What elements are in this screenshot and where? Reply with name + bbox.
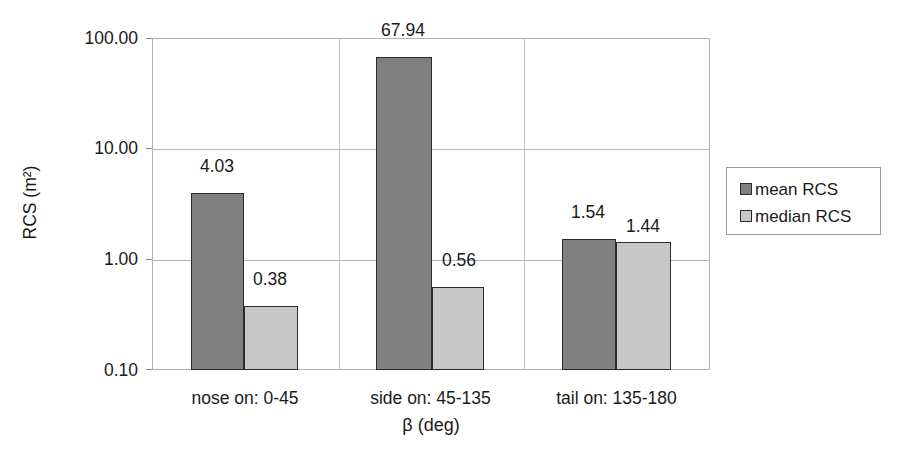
x-category-label-side-on: side on: 45-135 [338, 390, 523, 408]
y-tick-label-1: 1.00 [52, 251, 138, 269]
legend-swatch-mean-icon [740, 183, 752, 195]
x-category-label-nose-on: nose on: 0-45 [152, 390, 338, 408]
bar-value-median-side-on: 0.56 [417, 252, 501, 270]
bar-value-median-nose-on: 0.38 [228, 271, 312, 289]
bar-median-tail-on[interactable] [616, 242, 671, 370]
bar-mean-tail-on[interactable] [562, 239, 616, 370]
legend: mean RCS median RCS [726, 167, 881, 235]
legend-item-mean-rcs[interactable]: mean RCS [740, 178, 838, 200]
category-separator-2 [524, 39, 525, 369]
rcs-bar-chart: 100.00 10.00 1.00 0.10 RCS (m²) 4.03 [0, 0, 911, 459]
bar-median-nose-on[interactable] [244, 306, 298, 370]
y-axis-title: RCS (m²) [8, 128, 52, 278]
bar-mean-side-on[interactable] [376, 57, 432, 370]
category-separator-1 [339, 39, 340, 369]
legend-label-mean-rcs: mean RCS [755, 181, 838, 198]
legend-item-median-rcs[interactable]: median RCS [740, 205, 851, 227]
x-category-label-tail-on: tail on: 135-180 [523, 390, 710, 408]
x-axis-title: β (deg) [152, 415, 710, 436]
legend-swatch-median-icon [740, 210, 752, 222]
bar-median-side-on[interactable] [432, 287, 484, 370]
y-tick-label-0.1: 0.10 [52, 362, 138, 380]
bar-value-mean-nose-on: 4.03 [175, 158, 259, 176]
y-tick-label-10: 10.00 [52, 140, 138, 158]
y-axis-title-text: RCS (m²) [20, 153, 41, 253]
bar-value-mean-side-on: 67.94 [361, 22, 445, 40]
bar-value-median-tail-on: 1.44 [601, 218, 685, 236]
legend-label-median-rcs: median RCS [755, 208, 851, 225]
y-tick-label-100: 100.00 [52, 30, 138, 48]
